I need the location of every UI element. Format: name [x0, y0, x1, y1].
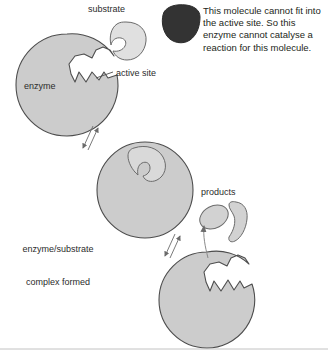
complex-label-line-2: complex formed	[4, 277, 112, 288]
complex-label-line-1: enzyme/substrate	[4, 244, 112, 255]
wrong-molecule-callout-text: This molecule cannot fit into the active…	[203, 5, 327, 54]
reversible-arrow-2	[165, 234, 180, 258]
enzyme-substrate-complex-label: enzyme/substrate complex formed	[4, 222, 112, 310]
enzyme-label: enzyme	[24, 81, 56, 92]
product-bean	[229, 202, 247, 242]
wrong-molecule	[162, 5, 200, 43]
substrate-label: substrate	[88, 4, 125, 15]
product-oval	[196, 200, 233, 234]
substrate-free	[110, 22, 146, 60]
enzyme-circle-released	[159, 251, 255, 348]
active-site-label: active site	[116, 68, 156, 79]
enzyme-mechanism-diagram: substrate active site enzyme enzyme/subs…	[0, 0, 328, 353]
products-label: products	[201, 187, 236, 198]
